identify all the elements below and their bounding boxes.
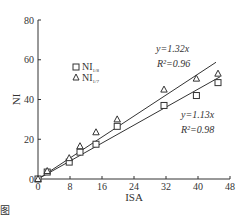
triangle-marker [93,129,99,135]
y-tick-label: 40 [24,94,34,105]
square-marker [114,123,120,129]
legend-triangle-icon [73,74,79,80]
upper-equation: y=1.32x [155,43,190,54]
square-marker [193,93,199,99]
triangle-marker [161,86,167,92]
footer-fragment: 图 [0,205,10,215]
square-marker [161,102,167,108]
legend-label-triangle: NI1/7 [82,72,99,84]
fit-line [38,62,216,179]
x-tick-label: 40 [193,181,203,192]
y-tick-label: 80 [24,15,34,26]
triangle-marker [77,143,83,149]
square-marker [93,141,99,147]
triangle-marker [114,116,120,122]
lower-r2: R²=0.98 [180,124,214,135]
x-tick-label: 32 [161,181,171,192]
x-tick-label: 8 [68,181,73,192]
y-tick-label: 20 [24,134,34,145]
scatter-chart: 081624324048020406080ISANINI1/8NI1/7y=1.… [0,0,246,215]
square-marker [77,149,83,155]
square-marker [215,80,221,86]
triangle-marker [215,70,221,76]
x-tick-label: 16 [97,181,107,192]
x-tick-label: 48 [225,181,235,192]
x-axis-title: ISA [125,191,143,203]
x-tick-label: 0 [36,181,41,192]
y-axis-title: NI [10,93,22,105]
y-tick-label: 60 [24,54,34,65]
upper-r2: R²=0.96 [156,58,190,69]
y-tick-label: 0 [29,174,34,185]
legend-square-icon [73,64,79,70]
lower-equation: y=1.13x [180,109,215,120]
